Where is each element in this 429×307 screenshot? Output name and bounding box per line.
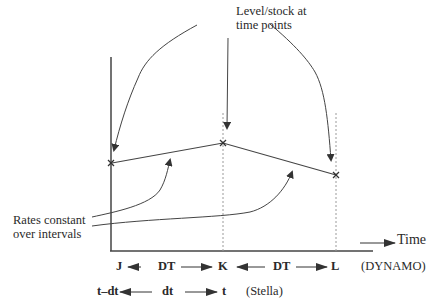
label-dt-2: DT bbox=[273, 259, 290, 274]
label-dt-1: DT bbox=[158, 259, 175, 274]
rates-label-line2: over intervals bbox=[13, 227, 86, 241]
label-t: t bbox=[222, 284, 226, 299]
rates-label-line1: Rates constant bbox=[13, 213, 86, 227]
level-stock-label-line2: time points bbox=[236, 18, 306, 32]
rates-label: Rates constant over intervals bbox=[13, 213, 86, 241]
label-k: K bbox=[218, 259, 228, 274]
level-stock-label: Level/stock at time points bbox=[236, 4, 306, 32]
title-arrow-k bbox=[227, 38, 228, 128]
time-axis-label: Time bbox=[397, 233, 426, 247]
level-line bbox=[112, 143, 336, 175]
rates-arrow-1 bbox=[92, 160, 170, 217]
rates-arrow-2 bbox=[92, 172, 292, 226]
label-dt: dt bbox=[162, 284, 173, 299]
label-j: J bbox=[116, 259, 122, 274]
title-arrow-l bbox=[270, 24, 331, 160]
label-stella: (Stella) bbox=[246, 284, 283, 299]
level-stock-label-line1: Level/stock at bbox=[236, 4, 306, 18]
label-dynamo: (DYNAMO) bbox=[361, 259, 426, 274]
title-arrow-j bbox=[114, 25, 197, 150]
label-l: L bbox=[331, 259, 339, 274]
label-t-minus-dt: t–dt bbox=[97, 284, 119, 299]
